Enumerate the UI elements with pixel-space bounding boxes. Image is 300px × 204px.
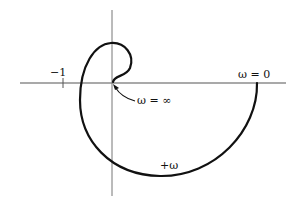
plus-omega-label: +ω — [160, 159, 178, 172]
omega-infinity-label: ω = ∞ — [137, 94, 171, 107]
minus-one-label: −1 — [50, 66, 66, 79]
nyquist-curve — [80, 43, 257, 176]
omega-zero-label: ω = 0 — [238, 68, 270, 81]
arrow-to-origin — [115, 87, 135, 101]
nyquist-diagram: −1 ω = 0 ω = ∞ +ω — [0, 0, 300, 204]
arrow-head-icon — [113, 84, 119, 90]
